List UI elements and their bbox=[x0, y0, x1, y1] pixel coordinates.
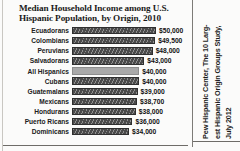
bar-category-label: Guatemalans bbox=[4, 88, 72, 95]
bar-category-label: Mexicans bbox=[4, 98, 72, 105]
bar-category-label: Dominicans bbox=[4, 128, 72, 135]
bar-track: $48,000 bbox=[72, 46, 190, 56]
source-credit-text: Pew Hispanic Center, The 10 Larg- est Hi… bbox=[199, 3, 234, 139]
bar bbox=[72, 67, 139, 74]
bar-category-label: Puerto Ricans bbox=[4, 118, 72, 125]
bar bbox=[72, 108, 136, 115]
source-bottom-rule bbox=[193, 141, 240, 142]
bar bbox=[72, 57, 144, 64]
chart-title: Median Household Income among U.S. Hispa… bbox=[4, 0, 190, 24]
bar-track: $34,000 bbox=[72, 126, 190, 136]
bar-row: Cubans$40,000 bbox=[4, 76, 190, 86]
bar bbox=[72, 77, 139, 84]
bar-track: $38,700 bbox=[72, 96, 190, 106]
bar-value-label: $49,500 bbox=[155, 37, 182, 44]
bar bbox=[72, 37, 155, 44]
bar-category-label: Colombians bbox=[4, 37, 72, 44]
bar-track: $39,000 bbox=[72, 86, 190, 96]
bar-value-label: $40,000 bbox=[139, 68, 166, 75]
bar-value-label: $36,000 bbox=[132, 118, 159, 125]
bar-category-label: Cubans bbox=[4, 78, 72, 85]
bar-row: Ecuadorans$50,000 bbox=[4, 26, 190, 36]
bar-value-label: $34,000 bbox=[129, 128, 156, 135]
bar-category-label: All Hispanics bbox=[4, 68, 72, 75]
bar-row: Mexicans$38,700 bbox=[4, 96, 190, 106]
bar-value-label: $38,700 bbox=[137, 98, 164, 105]
bar-value-label: $50,000 bbox=[156, 27, 183, 34]
bar-value-label: $48,000 bbox=[153, 47, 180, 54]
bar-value-label: $40,000 bbox=[139, 78, 166, 85]
bar-row: Puerto Ricans$36,000 bbox=[4, 116, 190, 126]
bar-value-label: $39,000 bbox=[138, 88, 165, 95]
bar bbox=[72, 118, 132, 125]
bar-row: Guatemalans$39,000 bbox=[4, 86, 190, 96]
chart-column: Median Household Income among U.S. Hispa… bbox=[4, 0, 190, 145]
source-credit-column: Pew Hispanic Center, The 10 Larg- est Hi… bbox=[193, 0, 240, 141]
bar-chart-plot: Ecuadorans$50,000Colombians$49,500Peruvi… bbox=[4, 26, 190, 137]
bar-track: $36,000 bbox=[72, 116, 190, 126]
bar-row: Hondurans$38,000 bbox=[4, 106, 190, 116]
figure-container: Median Household Income among U.S. Hispa… bbox=[0, 0, 240, 151]
bar bbox=[72, 27, 156, 34]
bar-row: All Hispanics$40,000 bbox=[4, 66, 190, 76]
bar bbox=[72, 128, 129, 135]
bar bbox=[72, 88, 138, 95]
bar-row: Colombians$49,500 bbox=[4, 36, 190, 46]
bar-category-label: Peruvians bbox=[4, 47, 72, 54]
page-left-edge bbox=[2, 0, 3, 151]
bar-track: $43,000 bbox=[72, 56, 190, 66]
bar-track: $40,000 bbox=[72, 76, 190, 86]
bar-track: $50,000 bbox=[72, 26, 190, 36]
bar-row: Dominicans$34,000 bbox=[4, 126, 190, 136]
bar-category-label: Hondurans bbox=[4, 108, 72, 115]
bar-row: Salvadorans$43,000 bbox=[4, 56, 190, 66]
bar-row: Peruvians$48,000 bbox=[4, 46, 190, 56]
bar bbox=[72, 98, 137, 105]
bar-category-label: Ecuadorans bbox=[4, 27, 72, 34]
bar-value-label: $43,000 bbox=[144, 57, 171, 64]
bar-category-label: Salvadorans bbox=[4, 57, 72, 64]
bar-value-label: $38,000 bbox=[136, 108, 163, 115]
bar bbox=[72, 47, 153, 54]
bar-track: $40,000 bbox=[72, 66, 190, 76]
bar-track: $38,000 bbox=[72, 106, 190, 116]
chart-bottom-rule bbox=[3, 145, 188, 146]
bar-track: $49,500 bbox=[72, 36, 190, 46]
